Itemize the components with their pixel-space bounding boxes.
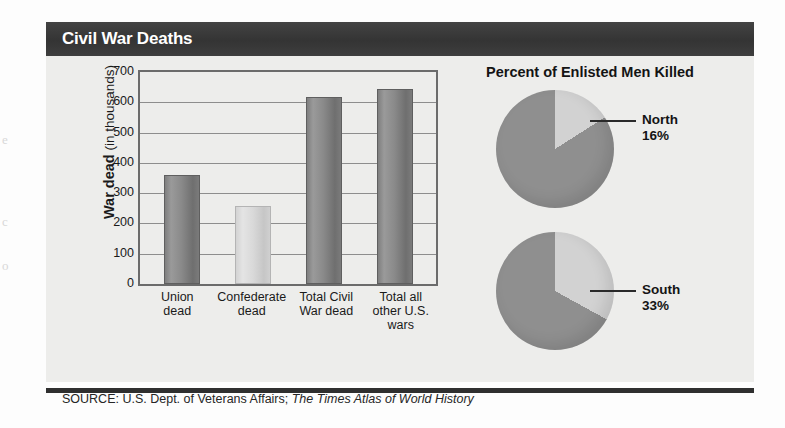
pie-chart-north bbox=[496, 90, 614, 208]
y-tick-label-100: 100 bbox=[94, 246, 134, 260]
bar-series bbox=[140, 72, 436, 284]
bar-chart: War dead (in thousands) 7006005004003002… bbox=[62, 62, 454, 344]
pie-group-title: Percent of Enlisted Men Killed bbox=[486, 64, 694, 80]
bar-total-all-other-u-s-wars bbox=[377, 89, 413, 284]
figure-title: Civil War Deaths bbox=[62, 29, 192, 49]
bar-slot bbox=[368, 72, 422, 284]
pie-label-name: South bbox=[642, 282, 680, 298]
bar-union-dead bbox=[164, 175, 200, 284]
x-axis-label-4: Total allother U.S.wars bbox=[364, 290, 438, 332]
infographic-figure: Civil War Deaths War dead (in thousands)… bbox=[46, 22, 754, 400]
x-axis-label-3: Total CivilWar dead bbox=[289, 290, 363, 332]
x-axis-label-line: Confederate bbox=[215, 290, 289, 304]
y-tick-label-600: 600 bbox=[94, 94, 134, 108]
y-tick-label-300: 300 bbox=[94, 185, 134, 199]
bar-total-civil-war-dead bbox=[306, 97, 342, 284]
x-axis-label-1: Uniondead bbox=[140, 290, 214, 332]
y-tick-label-0: 0 bbox=[94, 276, 134, 290]
bar-slot bbox=[155, 72, 209, 284]
source-prefix: SOURCE: U.S. Dept. of Veterans Affairs; bbox=[62, 392, 292, 406]
pie-label-percent: 16% bbox=[642, 128, 678, 144]
x-axis-label-line: Union bbox=[140, 290, 214, 304]
y-tick-label-200: 200 bbox=[94, 215, 134, 229]
pie-leader-line-north bbox=[590, 120, 636, 122]
pie-leader-line-south bbox=[590, 290, 636, 292]
pie-label-north: North16% bbox=[642, 112, 678, 144]
bleed-through-mark-3: o bbox=[2, 258, 9, 274]
bleed-through-mark-2: c bbox=[2, 214, 8, 230]
pie-label-name: North bbox=[642, 112, 678, 128]
y-tick-label-500: 500 bbox=[94, 125, 134, 139]
figure-body-panel: War dead (in thousands) 7006005004003002… bbox=[46, 56, 754, 382]
source-title-italic: The Times Atlas of World History bbox=[292, 392, 474, 406]
bar-slot bbox=[297, 72, 351, 284]
figure-bottom-rule bbox=[46, 388, 754, 393]
y-tick-label-400: 400 bbox=[94, 155, 134, 169]
pie-label-south: South33% bbox=[642, 282, 680, 314]
bar-confederate-dead bbox=[235, 206, 271, 284]
x-axis-label-line: War dead bbox=[289, 304, 363, 318]
scanned-page: e c o Civil War Deaths War dead (in thou… bbox=[0, 0, 785, 428]
x-axis-label-line: dead bbox=[215, 304, 289, 318]
figure-header-bar: Civil War Deaths bbox=[46, 22, 754, 56]
x-axis-label-2: Confederatedead bbox=[215, 290, 289, 332]
pie-chart-group: Percent of Enlisted Men Killed North16%S… bbox=[460, 60, 746, 376]
x-axis-label-line: wars bbox=[364, 318, 438, 332]
x-axis-label-line: Total all bbox=[364, 290, 438, 304]
x-axis-label-line: other U.S. bbox=[364, 304, 438, 318]
x-axis-label-line: dead bbox=[140, 304, 214, 318]
pie-label-percent: 33% bbox=[642, 298, 680, 314]
x-axis-label-line: Total Civil bbox=[289, 290, 363, 304]
x-axis-labels: UniondeadConfederatedeadTotal CivilWar d… bbox=[140, 290, 438, 332]
bar-chart-plot-area: 7006005004003002001000 bbox=[138, 70, 438, 286]
source-note: SOURCE: U.S. Dept. of Veterans Affairs; … bbox=[62, 392, 474, 406]
y-axis-label-rest: (in thousands) bbox=[102, 65, 117, 154]
y-tick-label-700: 700 bbox=[94, 64, 134, 78]
bar-slot bbox=[226, 72, 280, 284]
bleed-through-mark-1: e bbox=[2, 132, 8, 148]
